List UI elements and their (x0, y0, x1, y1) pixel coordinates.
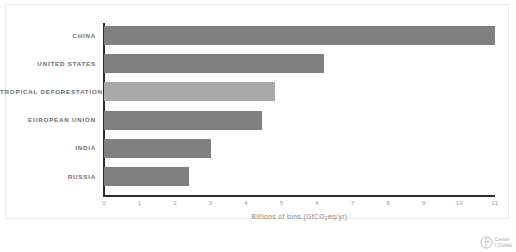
logo-line-1: Center (495, 237, 512, 242)
x-tick-4: 4 (234, 200, 258, 206)
x-axis-title: Billions of tons (GtCO2eq/yr) (104, 213, 495, 220)
bar-tropical-deforestation (104, 82, 275, 101)
bar-india (104, 139, 211, 158)
category-label-russia: RUSSIA (0, 173, 96, 180)
chart-figure: CHINAUNITED STATESTROPICAL DEFORESTATION… (0, 0, 516, 252)
x-tick-0: 0 (92, 200, 116, 206)
bar-fill (104, 139, 211, 158)
x-tick-7: 7 (341, 200, 365, 206)
logo-line-2: f Global (495, 243, 512, 248)
x-tick-3: 3 (199, 200, 223, 206)
x-tick-6: 6 (305, 200, 329, 206)
bar-fill (104, 82, 275, 101)
bar-china (104, 26, 495, 45)
bar-fill (104, 26, 495, 45)
x-tick-2: 2 (163, 200, 187, 206)
logo: Center f Global (480, 236, 512, 249)
logo-text: Center f Global (495, 237, 512, 248)
x-tick-8: 8 (376, 200, 400, 206)
category-label-india: INDIA (0, 144, 96, 151)
logo-icon (480, 236, 493, 249)
bar-russia (104, 167, 189, 186)
category-label-european-union: EUROPEAN UNION (0, 116, 96, 123)
x-tick-10: 10 (447, 200, 471, 206)
bar-fill (104, 111, 262, 130)
bar-fill (104, 54, 324, 73)
x-tick-5: 5 (270, 200, 294, 206)
x-tick-9: 9 (412, 200, 436, 206)
x-tick-11: 11 (483, 200, 507, 206)
x-tick-1: 1 (128, 200, 152, 206)
bar-european-union (104, 111, 262, 130)
category-label-china: CHINA (0, 32, 96, 39)
bar-fill (104, 167, 189, 186)
category-label-tropical-deforestation: TROPICAL DEFORESTATION (0, 88, 96, 95)
category-label-united-states: UNITED STATES (0, 60, 96, 67)
bar-united-states (104, 54, 324, 73)
